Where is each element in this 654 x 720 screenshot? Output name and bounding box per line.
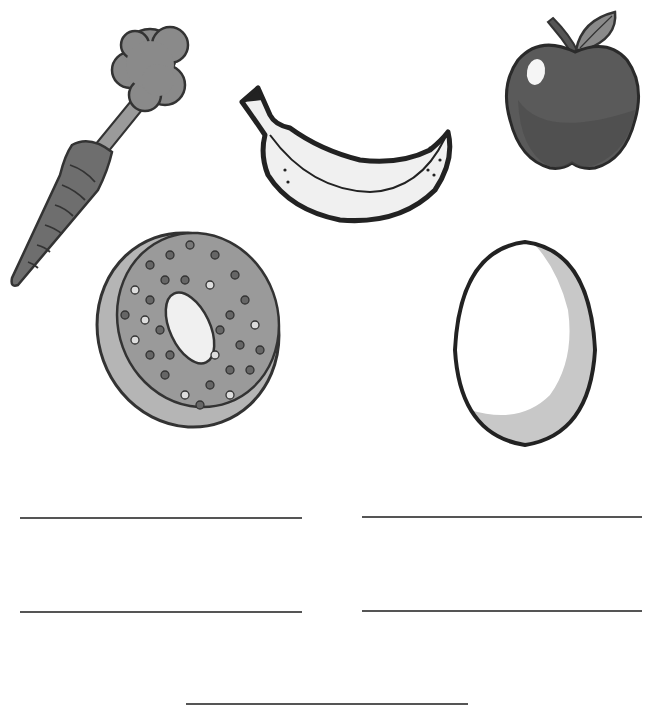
egg-illustration [440,230,610,460]
apple-illustration [490,0,654,200]
answer-line-2[interactable] [362,516,642,518]
answer-line-3[interactable] [20,611,302,613]
answer-line-4[interactable] [362,610,642,612]
banana-illustration [230,80,460,230]
answer-line-1[interactable] [20,517,302,519]
answer-line-5[interactable] [186,703,468,705]
donut-illustration [90,220,290,440]
